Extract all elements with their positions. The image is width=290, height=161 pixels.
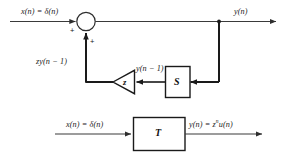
figure-container: x(n) = δ(n) + + y(n) zy(n − 1) y(n − 1) … xyxy=(0,0,290,161)
output-label-bottom-suffix: u(n) xyxy=(219,120,233,129)
gain-triangle-label: z xyxy=(123,78,126,87)
output-label-bottom: y(n) = znu(n) xyxy=(189,121,233,129)
input-label-bottom: x(n) = δ(n) xyxy=(66,121,103,129)
system-block-t-label: T xyxy=(155,128,161,138)
diagram-canvas xyxy=(0,0,290,161)
input-label-top: x(n) = δ(n) xyxy=(21,8,58,16)
feedback-label: zy(n − 1) xyxy=(36,58,67,66)
output-label-top: y(n) xyxy=(234,8,248,16)
output-label-bottom-prefix: y(n) = z xyxy=(189,120,216,129)
system-block-s-label: S xyxy=(174,77,180,87)
summing-junction-circle xyxy=(77,12,95,30)
summer-plus-input: + xyxy=(70,27,74,35)
delay-output-label: y(n − 1) xyxy=(136,65,164,73)
summer-plus-feedback: + xyxy=(90,38,94,46)
